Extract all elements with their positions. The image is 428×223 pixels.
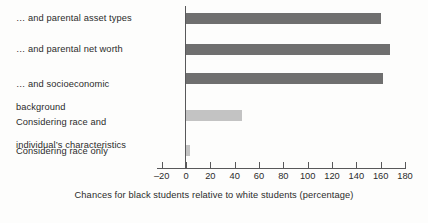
x-axis-tick	[283, 162, 284, 168]
plot-area	[186, 6, 428, 168]
x-axis-tick	[162, 162, 163, 168]
bar-socioeconomic-background	[186, 73, 383, 84]
x-axis-tick-label: 60	[254, 171, 264, 181]
x-axis-tick	[186, 162, 187, 168]
bar-parental-net-worth	[186, 44, 390, 55]
x-axis-tick	[259, 162, 260, 168]
x-axis-tick-label: 20	[205, 171, 215, 181]
x-axis-tick	[381, 162, 382, 168]
x-axis-tick-label: –20	[154, 171, 170, 181]
x-axis-tick	[356, 162, 357, 168]
category-label-line-1: … and socioeconomic	[16, 79, 109, 89]
category-label-race-and-individual-characteristics: Considering race and individual’s charac…	[16, 105, 174, 151]
bar-parental-asset-types	[186, 13, 381, 24]
x-axis-tick	[308, 162, 309, 168]
x-axis-tick	[235, 162, 236, 168]
x-axis-tick-label: 80	[278, 171, 288, 181]
x-axis-tick-label: 40	[229, 171, 239, 181]
x-axis-title: Chances for black students relative to w…	[0, 190, 428, 200]
bar-race-and-individual	[186, 110, 242, 121]
x-axis-tick	[332, 162, 333, 168]
horizontal-bar-chart: … and parental asset types … and parenta…	[0, 0, 428, 223]
x-axis-tick-label: 120	[324, 171, 340, 181]
x-axis-tick	[405, 162, 406, 168]
x-axis-tick-label: 160	[373, 171, 389, 181]
x-axis-tick	[210, 162, 211, 168]
category-label-race-only: Considering race only	[16, 146, 174, 158]
x-axis-tick-label: 180	[397, 171, 413, 181]
x-axis-tick-label: 100	[300, 171, 316, 181]
zero-axis-line	[185, 6, 186, 168]
bar-race-only	[186, 145, 190, 156]
category-label-parental-asset-types: … and parental asset types	[16, 13, 174, 25]
category-label-line-1: Considering race and	[16, 117, 106, 127]
x-axis-line	[157, 168, 406, 169]
x-axis-tick-label: 140	[349, 171, 365, 181]
x-axis-tick-label: 0	[183, 171, 188, 181]
category-label-parental-net-worth: … and parental net worth	[16, 44, 174, 56]
